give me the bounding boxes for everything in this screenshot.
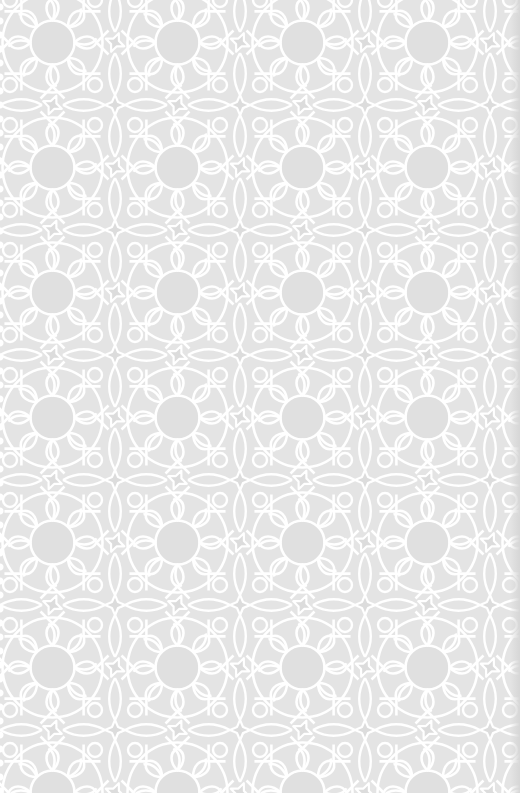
right-edge-shadow — [510, 0, 520, 793]
lace-pattern-canvas — [0, 0, 520, 793]
scalloped-left-edge — [0, 0, 8, 793]
geometric-lace-pattern — [0, 0, 520, 793]
